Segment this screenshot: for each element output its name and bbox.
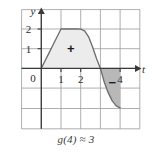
y-axis-label: y (30, 5, 36, 17)
x-tick-label-2: 2 (78, 73, 84, 85)
figure-caption: g(4) ≈ 3 (0, 133, 152, 145)
x-tick-label-0: 0 (30, 72, 36, 84)
y-tick-label-2: 2 (26, 23, 32, 35)
positive-sign-marker: + (67, 41, 75, 56)
negative-sign-marker: − (108, 75, 116, 90)
x-axis-label: t (142, 63, 146, 75)
function-graph: y t 1 2 0 1 2 4 + − (0, 0, 152, 155)
y-tick-label-1: 1 (26, 43, 32, 55)
x-tick-label-4: 4 (117, 73, 123, 85)
figure-container: y t 1 2 0 1 2 4 + − g(4) ≈ 3 (0, 0, 152, 155)
x-tick-label-1: 1 (58, 73, 64, 85)
